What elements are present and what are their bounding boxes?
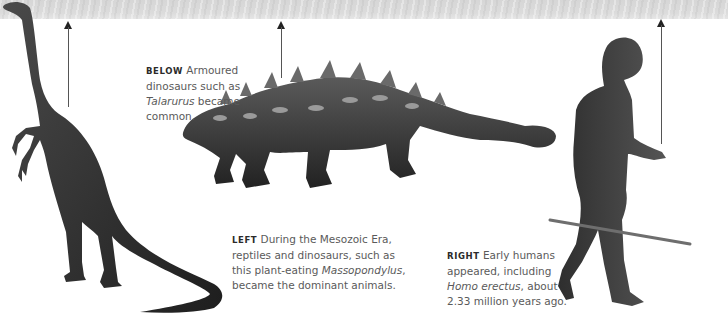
species-name: Homo erectus (447, 280, 521, 292)
caption-massopondylus: LEFT During the Mesozoic Era, reptiles a… (232, 232, 412, 293)
caption-lead: BELOW (146, 66, 183, 76)
species-name: Massopondylus (322, 264, 403, 276)
caption-talarurus: BELOW Armoured dinosaurs such as Talarur… (146, 63, 256, 124)
caption-homo-erectus: RIGHT Early humans appeared, including H… (447, 248, 567, 309)
homo-erectus-illustration (540, 30, 728, 317)
species-name: Talarurus (146, 95, 195, 107)
caption-lead: LEFT (232, 235, 257, 245)
caption-lead: RIGHT (447, 251, 480, 261)
